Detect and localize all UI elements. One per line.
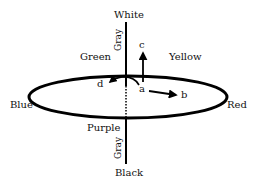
label-b: b: [181, 90, 187, 100]
label-green: Green: [80, 52, 111, 62]
label-gray-upper: Gray: [113, 29, 123, 51]
label-a: a: [139, 84, 145, 94]
color-solid-diagram: [0, 0, 254, 186]
vector-b-arrow: [149, 91, 176, 95]
label-red: Red: [227, 100, 247, 110]
label-yellow: Yellow: [169, 52, 202, 62]
label-purple: Purple: [87, 123, 120, 133]
label-c: c: [139, 40, 145, 50]
hue-ring: [29, 76, 227, 118]
label-d: d: [97, 79, 103, 89]
vector-d-arrow: [110, 77, 139, 85]
label-white: White: [114, 10, 144, 20]
label-gray-lower: Gray: [113, 137, 123, 159]
label-blue: Blue: [10, 100, 33, 110]
label-black: Black: [115, 168, 143, 178]
